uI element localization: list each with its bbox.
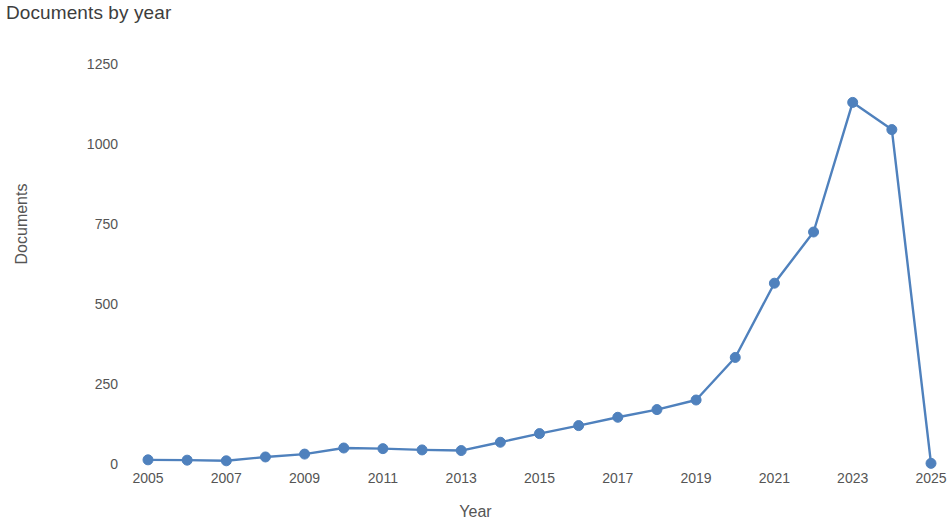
data-point-marker [143, 455, 153, 465]
data-point-marker [339, 443, 349, 453]
documents-by-year-chart: Documents by year Documents 025050075010… [0, 0, 951, 529]
data-point-marker [260, 452, 270, 462]
data-point-marker [848, 97, 858, 107]
data-point-marker [887, 125, 897, 135]
data-point-marker [300, 449, 310, 459]
data-point-marker [926, 458, 936, 468]
data-point-marker [613, 412, 623, 422]
data-point-marker [574, 421, 584, 431]
line-series-svg [0, 0, 951, 529]
data-point-marker [691, 395, 701, 405]
data-point-marker [182, 455, 192, 465]
data-point-marker [221, 456, 231, 466]
data-point-marker [378, 444, 388, 454]
data-point-marker [417, 445, 427, 455]
series-line-documents [148, 102, 931, 463]
data-point-marker [652, 405, 662, 415]
series-markers-documents [143, 97, 936, 468]
x-axis-title: Year [0, 503, 951, 521]
data-point-marker [769, 278, 779, 288]
data-point-marker [730, 352, 740, 362]
data-point-marker [535, 429, 545, 439]
data-point-marker [809, 227, 819, 237]
data-point-marker [495, 437, 505, 447]
data-point-marker [456, 446, 466, 456]
plot-area: 025050075010001250 200520072009201120132… [0, 0, 951, 529]
